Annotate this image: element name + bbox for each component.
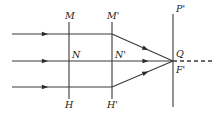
label-H: H [65,100,73,110]
converging-ray-lower [112,61,173,87]
converging-ray-lower-arrowhead [142,71,149,76]
converging-ray-upper-arrowhead [142,45,149,50]
label-N-prime: N' [115,50,126,60]
label-F-prime: F' [176,65,185,75]
incoming-ray-middle-arrowhead [42,59,48,64]
converging-rays-group [112,34,173,87]
converging-ray-middle-arrowhead [142,59,148,64]
label-Q: Q [176,49,184,59]
label-M-prime: M' [107,11,119,21]
incoming-ray-lower-arrowhead [42,85,48,90]
incoming-rays-group [12,32,112,90]
label-N: N [72,50,80,60]
label-H-prime: H' [107,100,118,110]
label-P-prime: P' [176,4,185,14]
label-M: M [65,11,75,21]
optical-ray-diagram: M M' N N' H H' P' Q F' [0,0,219,115]
incoming-ray-upper-arrowhead [42,32,48,37]
